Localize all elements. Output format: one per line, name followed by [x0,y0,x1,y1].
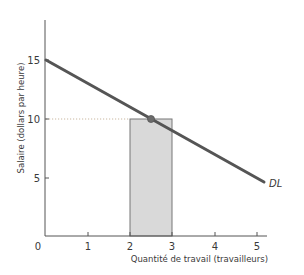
equilibrium-point [148,116,155,123]
y-tick-label-5: 5 [34,173,40,184]
x-tick-label-4: 4 [212,241,218,252]
y-axis-title: Salaire (dollars par heure) [16,63,26,174]
x-tick-label-1: 1 [85,241,91,252]
curve-label-dl: DL [269,178,282,189]
origin-label: 0 [35,241,41,252]
x-tick-label-3: 3 [169,241,175,252]
x-axis-title: Quantité de travail (travailleurs) [131,254,268,264]
shaded-wage-bar [130,119,172,236]
x-tick-label-5: 5 [254,241,260,252]
y-tick-label-15: 15 [27,55,40,66]
y-tick-label-10: 10 [27,114,40,125]
labor-demand-chart: 15 10 5 0 1 2 3 4 5 Quantité de travail … [0,0,304,275]
x-tick-label-2: 2 [127,241,133,252]
